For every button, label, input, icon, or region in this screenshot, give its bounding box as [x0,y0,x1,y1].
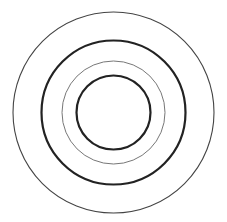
outer-ring [13,12,214,213]
diagram-svg [0,0,227,222]
concentric-circles-diagram [0,0,227,222]
inner-ring [77,76,151,150]
second-ring [42,41,186,185]
